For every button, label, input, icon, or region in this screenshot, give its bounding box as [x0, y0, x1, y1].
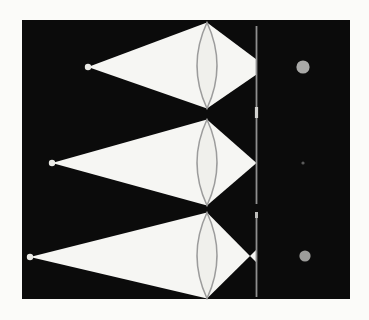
blur-disk-spot	[296, 60, 309, 73]
image-spot-group-focus-in-front-of-screen	[299, 250, 310, 261]
screen-line	[256, 212, 258, 297]
sharp-point-spot	[301, 161, 304, 164]
blur-disk-spot	[299, 250, 310, 261]
point-source-icon	[27, 254, 33, 260]
image-spot-group-in-focus-on-screen	[301, 161, 304, 164]
screen-line-mark	[255, 212, 258, 218]
figure-photo	[0, 0, 369, 320]
optics-diagram	[0, 0, 369, 320]
point-source-icon	[85, 64, 91, 70]
image-spot-group-focus-behind-screen	[296, 60, 309, 73]
screen-line-mark	[255, 107, 258, 118]
point-source-icon	[49, 160, 55, 166]
